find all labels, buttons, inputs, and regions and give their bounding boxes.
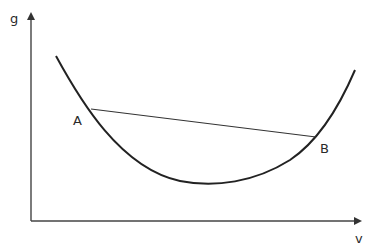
x-axis-label: v — [355, 232, 363, 245]
point-b-label: B — [320, 142, 329, 155]
point-a-label: A — [73, 114, 82, 127]
convex-curve — [56, 56, 355, 184]
convex-curve-diagram — [0, 0, 376, 250]
y-axis-label: g — [10, 12, 18, 25]
chord-ab — [91, 109, 316, 137]
